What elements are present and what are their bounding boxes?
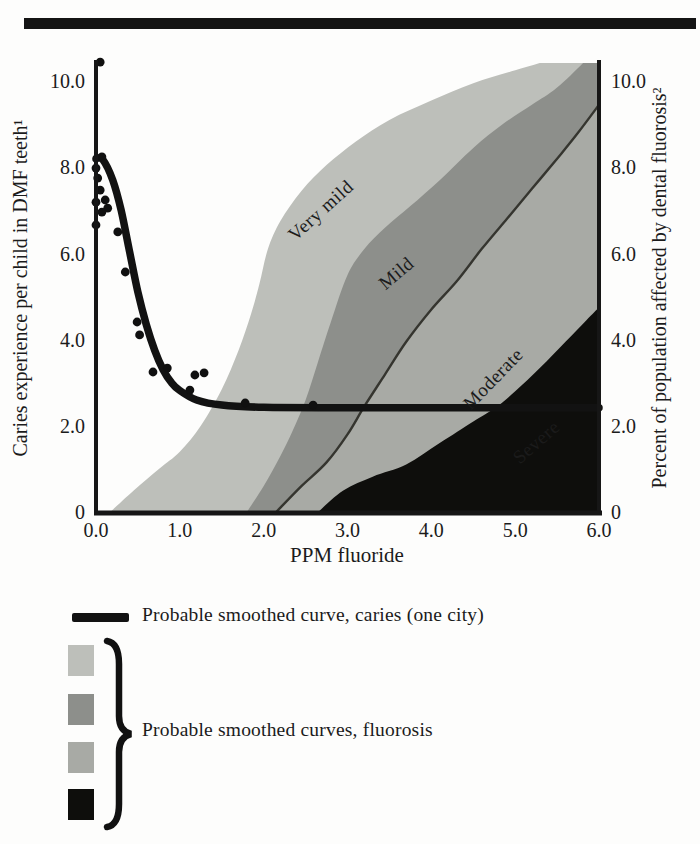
caries-data-point [113,228,122,237]
scanned-figure-page: Very mildMildModerateSevere 10.08.06.04.… [0,0,700,844]
caries-data-point [133,318,142,327]
y-tick-labels-right: 10.08.06.04.02.00 [611,70,646,523]
y-tick-labels-left: 10.08.06.04.02.00 [50,70,85,523]
y-tick-label-right: 8.0 [611,156,636,178]
x-tick-label: 5.0 [503,519,528,541]
caries-data-point [149,368,158,377]
caries-data-point [191,371,200,380]
legend-swatch-severe [68,789,94,820]
y-tick-label-right: 10.0 [611,70,646,92]
legend-caries-swatch [72,613,129,622]
y-tick-label-left: 4.0 [60,329,85,351]
legend-fluorosis-label: Probable smoothed curves, fluorosis [142,719,433,741]
top-rule [24,18,696,29]
caries-data-point [241,399,250,408]
caries-fluorosis-chart: Very mildMildModerateSevere 10.08.06.04.… [0,0,700,582]
caries-data-point [121,268,130,277]
x-tick-label: 3.0 [335,519,360,541]
y-tick-label-left: 8.0 [60,156,85,178]
y-tick-label-left: 10.0 [50,70,85,92]
y-tick-label-right: 0 [611,501,621,523]
caries-data-point [309,401,318,410]
caries-data-point [200,368,209,377]
y-axis-title-left: Caries experience per child in DMF teeth… [9,120,32,457]
y-tick-label-right: 2.0 [611,415,636,437]
caries-data-point [98,208,107,217]
x-tick-label: 2.0 [251,519,276,541]
caries-data-point [101,196,110,205]
caries-data-point [163,364,172,373]
x-tick-labels: 0.01.02.03.04.05.06.0 [84,519,612,541]
x-tick-label: 6.0 [587,519,612,541]
x-tick-label: 1.0 [167,519,192,541]
legend-caries-label: Probable smoothed curve, caries (one cit… [142,604,484,626]
y-tick-label-left: 2.0 [60,415,85,437]
x-tick-label: 4.0 [419,519,444,541]
x-axis-title: PPM fluoride [290,543,404,567]
y-tick-label-left: 6.0 [60,243,85,265]
y-axis-title-right: Percent of population affected by dental… [648,87,671,488]
y-tick-label-right: 4.0 [611,329,636,351]
caries-data-point [186,386,195,395]
y-tick-label-right: 6.0 [611,243,636,265]
caries-data-point [135,331,144,340]
legend-brace-icon [100,636,138,832]
legend-swatch-very-mild [68,645,94,676]
x-tick-label: 0.0 [84,519,109,541]
legend-swatch-mild [68,694,94,725]
legend-swatch-moderate [68,742,94,773]
caries-data-point [98,153,107,162]
